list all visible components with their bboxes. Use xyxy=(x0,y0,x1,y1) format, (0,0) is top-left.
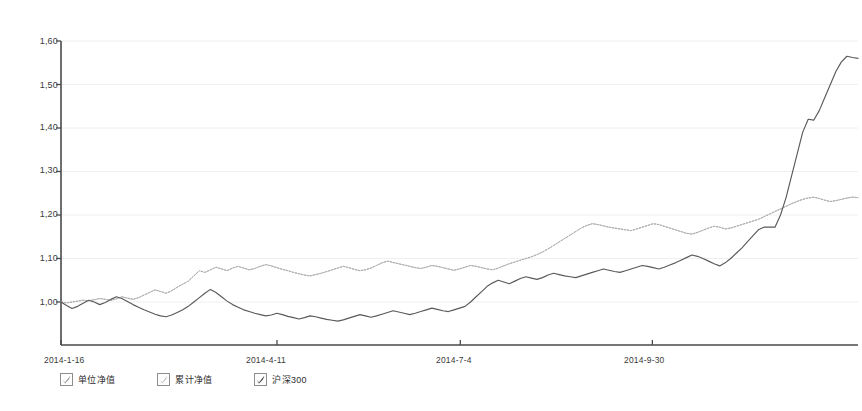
checkbox-csi300[interactable] xyxy=(254,373,267,386)
legend-item-cumulative-nav[interactable]: 累计净值 xyxy=(157,373,212,386)
checkbox-unit-nav[interactable] xyxy=(60,373,73,386)
series-line-2 xyxy=(61,56,858,321)
legend-label-unit-nav: 单位净值 xyxy=(78,373,115,386)
fund-performance-chart: 1,60 1,50 1,40 1,30 1,20 1,10 1,00 2014-… xyxy=(0,0,862,411)
series-line-1 xyxy=(61,197,858,303)
plot-area xyxy=(0,0,862,411)
check-icon xyxy=(61,374,72,385)
legend-item-csi300[interactable]: 沪深300 xyxy=(254,373,307,386)
series-line-0 xyxy=(61,197,858,303)
check-icon xyxy=(158,374,169,385)
checkbox-cumulative-nav[interactable] xyxy=(157,373,170,386)
legend-label-cumulative-nav: 累计净值 xyxy=(175,373,212,386)
legend-label-csi300: 沪深300 xyxy=(272,373,307,386)
check-icon xyxy=(255,374,266,385)
legend-item-unit-nav[interactable]: 单位净值 xyxy=(60,373,115,386)
chart-legend: 单位净值 累计净值 沪深300 xyxy=(60,373,349,386)
